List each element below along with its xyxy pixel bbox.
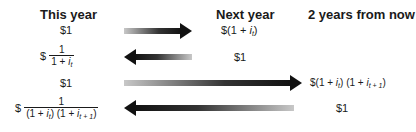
denominator: (1 + it) (1 + it + 1) bbox=[24, 108, 98, 123]
row3-two-years-value: $(1 + it) (1 + it + 1) bbox=[310, 77, 386, 89]
text: 1 + bbox=[51, 56, 68, 67]
header-two-years: 2 years from now bbox=[308, 7, 415, 22]
row4-this-year-value: $ 1 (1 + it) (1 + it + 1) bbox=[15, 96, 98, 123]
arrow-left-row2 bbox=[124, 49, 192, 65]
denominator: 1 + it bbox=[49, 56, 74, 71]
text: t bbox=[70, 61, 72, 68]
row1-this-year-value: $1 bbox=[60, 24, 72, 36]
row4-two-years-value: $1 bbox=[336, 102, 348, 114]
text: ) (1 + bbox=[340, 77, 366, 88]
text: (1 + bbox=[26, 108, 46, 119]
row1-next-year-value: $(1 + it) bbox=[221, 24, 258, 37]
row2-next-year-value: $1 bbox=[234, 51, 246, 63]
numerator: 1 bbox=[49, 44, 74, 56]
fraction: 1 1 + it bbox=[49, 44, 74, 71]
text: t + 1 bbox=[79, 113, 93, 120]
header-this-year: This year bbox=[40, 7, 97, 22]
text: t + 1 bbox=[369, 82, 383, 89]
text: $(1 + bbox=[221, 24, 249, 36]
text: $ bbox=[15, 102, 21, 114]
text: $(1 + bbox=[310, 77, 336, 88]
header-next-year: Next year bbox=[216, 7, 275, 22]
numerator: 1 bbox=[24, 96, 98, 108]
text: ) bbox=[383, 77, 386, 88]
text: ) bbox=[254, 24, 258, 36]
fraction: 1 (1 + it) (1 + it + 1) bbox=[24, 96, 98, 123]
arrow-right-row1 bbox=[124, 23, 192, 39]
text: $ bbox=[40, 50, 46, 62]
row2-this-year-value: $ 1 1 + it bbox=[40, 44, 74, 71]
text: ) bbox=[93, 108, 96, 119]
row3-this-year-value: $1 bbox=[60, 77, 72, 89]
arrow-left-row4 bbox=[124, 100, 294, 116]
text: ) (1 + bbox=[51, 108, 77, 119]
arrow-right-row3 bbox=[124, 75, 302, 91]
